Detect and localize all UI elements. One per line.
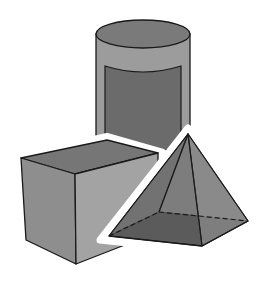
cylinder-shape: [96, 20, 190, 150]
solids-diagram: [0, 0, 268, 283]
diagram-canvas: 3D geometric solids: [0, 0, 268, 283]
